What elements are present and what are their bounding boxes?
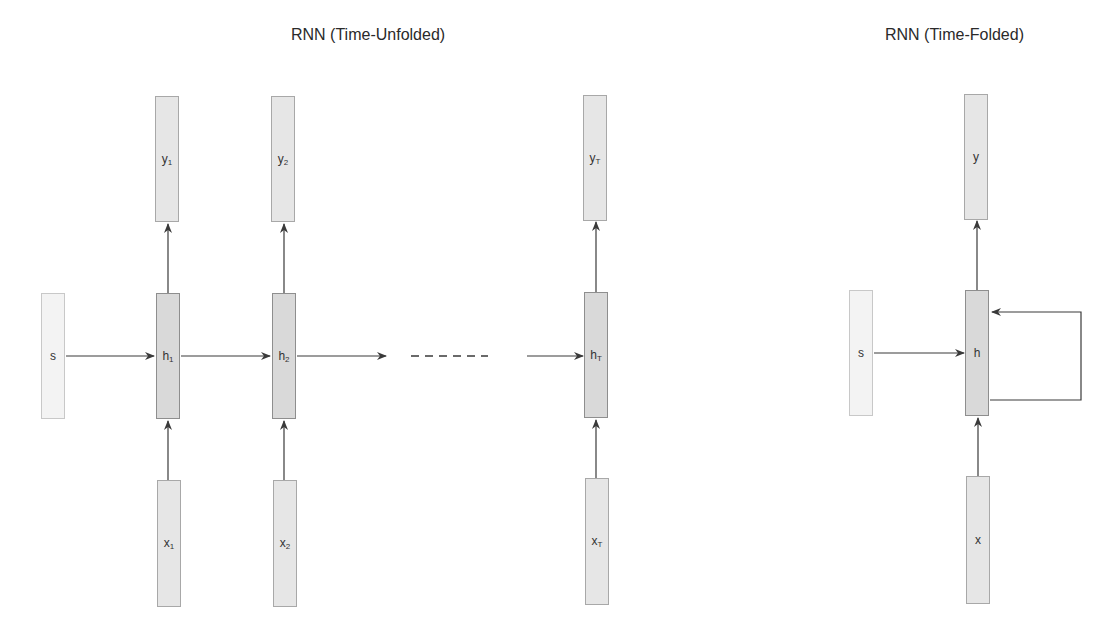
- hidden-label-h: h: [974, 346, 981, 360]
- output-box-yT: yT: [583, 95, 607, 221]
- state-box-unfolded: s: [41, 293, 65, 419]
- recurrent-loop-arrow: [990, 312, 1081, 400]
- state-label-folded: s: [858, 346, 864, 360]
- output-label-y1: y1: [162, 152, 172, 167]
- hidden-label-h2: h2: [278, 349, 289, 364]
- state-box-folded: s: [849, 290, 873, 416]
- output-label-y2: y2: [278, 152, 288, 167]
- output-label-yT: yT: [590, 151, 601, 166]
- hidden-box-h: h: [965, 290, 989, 416]
- hidden-label-h1: h1: [162, 349, 173, 364]
- output-label-y: y: [973, 150, 979, 164]
- input-label-x2: x2: [280, 536, 290, 551]
- input-label-x: x: [975, 533, 981, 547]
- input-box-xT: xT: [585, 478, 609, 605]
- hidden-box-hT: hT: [584, 292, 608, 418]
- hidden-label-hT: hT: [590, 348, 602, 363]
- output-box-y2: y2: [271, 96, 295, 222]
- hidden-box-h1: h1: [156, 293, 180, 419]
- input-label-xT: xT: [592, 534, 603, 549]
- input-box-x2: x2: [273, 480, 297, 607]
- input-label-x1: x1: [164, 536, 174, 551]
- input-box-x: x: [966, 476, 990, 604]
- output-box-y1: y1: [155, 96, 179, 222]
- state-label: s: [50, 349, 56, 363]
- output-box-y: y: [964, 94, 988, 220]
- hidden-box-h2: h2: [272, 293, 296, 419]
- input-box-x1: x1: [157, 480, 181, 607]
